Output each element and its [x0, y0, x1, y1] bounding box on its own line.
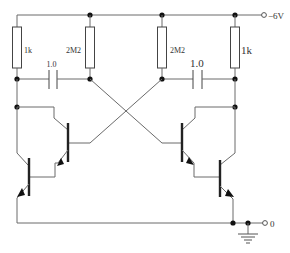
- capacitor-c1: [14, 70, 92, 89]
- transistor-tr4: [220, 160, 234, 223]
- right-collector-wire: [182, 79, 238, 165]
- resistor-r1: [13, 27, 22, 79]
- ground-rail: [17, 220, 267, 225]
- resistor-r2-label: 2M2: [66, 46, 81, 55]
- ground-label: 0: [270, 219, 275, 229]
- left-collector-wire: [14, 79, 68, 165]
- resistor-r3-label: 2M2: [170, 46, 185, 55]
- resistor-r3: [158, 15, 167, 79]
- supply-label: −6V: [268, 11, 285, 21]
- resistor-r1-label: 1k: [24, 46, 32, 55]
- capacitor-c2: [159, 70, 237, 89]
- transistor-tr3: [182, 123, 194, 165]
- ground-icon: [238, 223, 258, 243]
- ground-terminal: [263, 221, 268, 226]
- circuit-schematic: −6V 1k 2M2 2M2 1k 1.0: [0, 0, 290, 253]
- supply-terminal: [262, 13, 267, 18]
- resistor-r2: [86, 15, 95, 79]
- transistor-tr2: [17, 158, 29, 223]
- capacitor-c2-label: 1.0: [190, 57, 204, 69]
- resistor-r4-label: 1k: [241, 44, 253, 56]
- cross-coupling: [68, 79, 182, 143]
- transistor-tr1: [55, 123, 68, 166]
- supply-rail: [17, 12, 266, 27]
- capacitor-c1-label: 1.0: [47, 60, 57, 69]
- resistor-r4: [231, 15, 240, 79]
